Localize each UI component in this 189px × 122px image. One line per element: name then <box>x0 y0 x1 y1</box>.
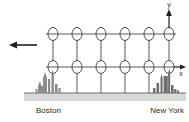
node-rail-ticks <box>48 34 174 67</box>
boston-building <box>55 84 58 93</box>
flow-arrow-left-icon <box>9 41 37 48</box>
ny-building-tall <box>164 76 168 93</box>
lattice-horizontal-rails <box>46 34 176 67</box>
boston-building <box>48 79 50 93</box>
x-axis-label: x <box>179 70 183 77</box>
boston-skyline-icon <box>36 70 61 93</box>
boston-building <box>59 88 61 93</box>
ny-tower <box>161 74 163 93</box>
ny-building <box>177 91 179 94</box>
new-york-label: New York <box>150 106 185 115</box>
flow-arrow-head <box>9 41 17 48</box>
ny-building <box>153 88 155 93</box>
figure-canvas: y x Boston New York <box>0 0 189 122</box>
boston-spire <box>52 70 54 93</box>
x-axis-arrow-head <box>180 64 186 69</box>
ny-building <box>171 85 174 93</box>
ny-spire <box>168 68 170 93</box>
x-axis-icon <box>174 64 186 69</box>
y-axis-arrow-head <box>166 9 172 16</box>
ny-building <box>157 83 160 93</box>
boston-label: Boston <box>36 106 61 115</box>
boston-skyline-shape <box>38 72 47 93</box>
y-axis-label: y <box>167 1 171 9</box>
network-diagram: y x Boston New York <box>0 0 189 122</box>
y-axis-icon <box>166 9 172 28</box>
ny-building <box>174 89 176 93</box>
boston-building <box>36 89 38 93</box>
ground-band <box>24 93 186 101</box>
